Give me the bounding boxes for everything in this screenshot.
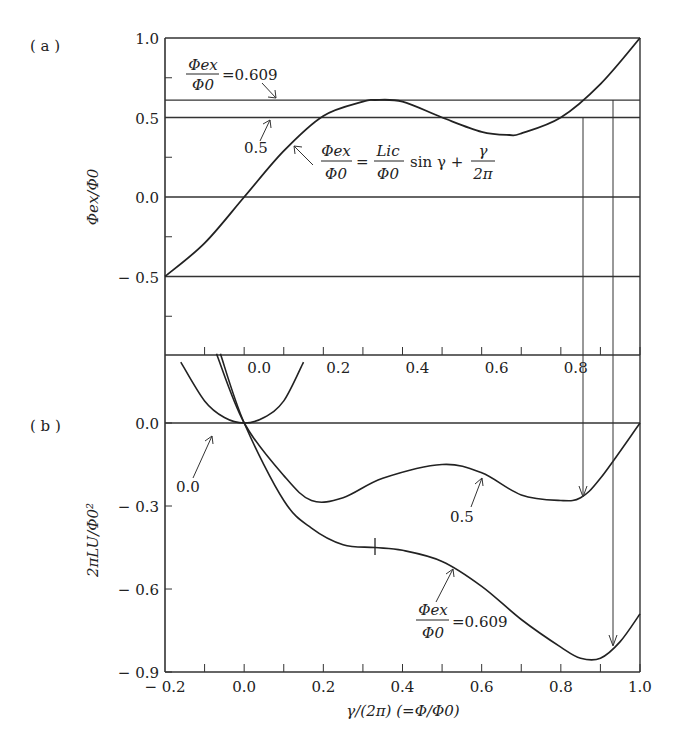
x-tick-label: 0.6 <box>485 359 509 377</box>
svg-text:Φex: Φex <box>321 142 351 160</box>
arrow-icon <box>193 436 213 478</box>
x-tick-label: 0.0 <box>232 678 256 696</box>
panel-a: 1.00.50.0− 0.5 0.00.20.40.60.8 <box>118 30 640 672</box>
y-tick-label: 1.0 <box>135 30 159 48</box>
annotation-a-05: 0.5 <box>244 139 268 157</box>
panel-a-y-axis-label: Φex/Φ0 <box>84 168 102 225</box>
svg-text:Φ0: Φ0 <box>422 624 444 642</box>
annotation-b-0609: Φex Φ0 =0.609 <box>416 601 508 642</box>
svg-text:Φ0: Φ0 <box>192 76 214 94</box>
panel-a-y-ticks: 1.00.50.0− 0.5 <box>118 30 172 316</box>
panel-b-y-axis-label: 2πLU/Φ0² <box>84 503 102 578</box>
y-tick-label: 0.0 <box>135 415 159 433</box>
svg-text:Φex: Φex <box>418 601 448 619</box>
y-tick-label: 0.5 <box>135 110 159 128</box>
y-tick-label: 0.0 <box>135 189 159 207</box>
chart-figure: 1.00.50.0− 0.5 0.00.20.40.60.8 0.0− 0.3−… <box>0 0 674 755</box>
panel-b-y-ticks: 0.0− 0.3− 0.6− 0.9 <box>118 415 172 682</box>
annotation-b-00: 0.0 <box>176 478 200 496</box>
annotation-a-0609: Φex Φ0 =0.609 <box>186 56 278 94</box>
svg-text:=0.609: =0.609 <box>222 66 278 84</box>
svg-text:=0.609: =0.609 <box>452 613 508 631</box>
svg-text:2π: 2π <box>472 165 494 183</box>
x-tick-label: 0.6 <box>470 678 494 696</box>
svg-text:sin γ +: sin γ + <box>410 153 463 171</box>
arrow-icon <box>294 146 313 165</box>
panel-b: 0.0− 0.3− 0.6− 0.9 − 0.20.00.20.40.60.81… <box>118 354 652 696</box>
x-tick-label: 1.0 <box>628 678 652 696</box>
svg-text:Φex: Φex <box>188 56 218 74</box>
arrow-icon <box>471 478 483 507</box>
y-tick-label: − 0.3 <box>118 498 159 516</box>
arrow-icon <box>260 120 271 141</box>
arrow-icon <box>262 83 276 98</box>
x-tick-label: 0.8 <box>549 678 573 696</box>
x-tick-label: 0.2 <box>311 678 335 696</box>
svg-text:γ: γ <box>479 142 488 160</box>
x-tick-label: 0.4 <box>391 678 415 696</box>
y-tick-label: − 0.6 <box>118 581 159 599</box>
x-tick-label: 0.4 <box>406 359 430 377</box>
svg-text:=: = <box>356 153 369 171</box>
arrow-icon <box>436 569 454 602</box>
y-tick-label: − 0.5 <box>118 269 159 287</box>
panel-a-label: ( a ) <box>30 37 60 55</box>
x-tick-label: 0.2 <box>326 359 350 377</box>
svg-text:Φ0: Φ0 <box>325 165 347 183</box>
x-tick-label: 0.8 <box>564 359 588 377</box>
equation-annotation: Φex Φ0 = Lic Φ0 sin γ + γ 2π <box>321 142 495 183</box>
panel-b-x-ticks: − 0.20.00.20.40.60.81.0 <box>144 664 652 696</box>
x-axis-label: γ/(2π) (=Φ/Φ0) <box>346 702 460 720</box>
energy-curve-0-0 <box>181 362 304 423</box>
x-tick-label: 0.0 <box>247 359 271 377</box>
x-tick-label: − 0.2 <box>144 678 185 696</box>
panel-b-label: ( b ) <box>30 417 61 435</box>
svg-text:Lic: Lic <box>375 142 400 160</box>
annotation-b-05: 0.5 <box>450 508 474 526</box>
panel-divider-x-ticks: 0.00.20.40.60.8 <box>205 347 640 377</box>
panel-a-reference-lines <box>165 100 640 276</box>
svg-text:Φ0: Φ0 <box>377 165 399 183</box>
